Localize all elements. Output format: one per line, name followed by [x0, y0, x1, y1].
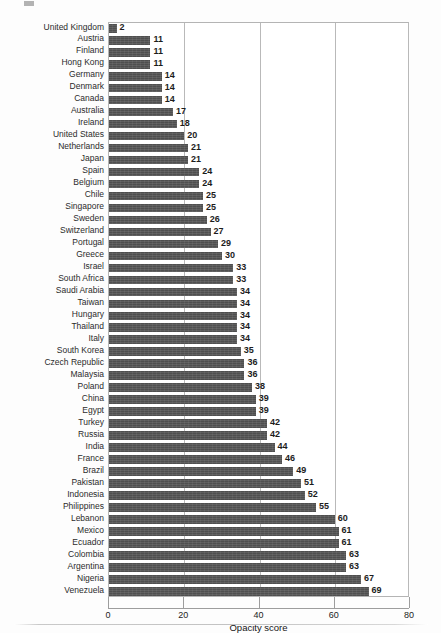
category-label: Mexico — [0, 525, 104, 535]
bar-value-label: 18 — [180, 118, 190, 129]
chart-page: 2111111141414171820212124242525262729303… — [0, 0, 441, 633]
x-tick-20 — [183, 597, 184, 608]
x-tick-40 — [259, 597, 260, 608]
bar-row: 34 — [109, 334, 408, 346]
bar — [109, 383, 252, 392]
bar-value-label: 33 — [236, 274, 246, 285]
bar-row: 52 — [109, 490, 408, 502]
bar-row: 20 — [109, 131, 408, 143]
category-label: Germany — [0, 69, 104, 79]
category-label: Switzerland — [0, 225, 104, 235]
bar — [109, 467, 293, 476]
bar — [109, 359, 244, 368]
bar-row: 18 — [109, 119, 408, 131]
bar — [109, 84, 162, 93]
bar-row: 21 — [109, 155, 408, 167]
bar-row: 44 — [109, 442, 408, 454]
bar-value-label: 69 — [372, 585, 382, 596]
bar-value-label: 29 — [221, 238, 231, 249]
category-label: Finland — [0, 45, 104, 55]
bar-value-label: 60 — [338, 513, 348, 524]
bar-row: 34 — [109, 322, 408, 334]
bar-rows: 2111111141414171820212124242525262729303… — [109, 23, 408, 596]
bar-row: 36 — [109, 358, 408, 370]
category-label: South Korea — [0, 345, 104, 355]
bar-value-label: 33 — [236, 262, 246, 273]
category-label: Ireland — [0, 117, 104, 127]
category-label: Greece — [0, 249, 104, 259]
category-label: Pakistan — [0, 477, 104, 487]
bar — [109, 587, 369, 596]
bar — [109, 575, 361, 584]
bar-value-label: 39 — [259, 393, 269, 404]
bar — [109, 120, 177, 129]
bar — [109, 539, 339, 548]
bar-value-label: 21 — [191, 154, 201, 165]
category-label: Brazil — [0, 465, 104, 475]
bar-row: 34 — [109, 287, 408, 299]
x-tick-80 — [409, 597, 410, 608]
category-label: Sweden — [0, 213, 104, 223]
category-label: United Kingdom — [0, 22, 104, 32]
bar-row: 25 — [109, 203, 408, 215]
category-label: India — [0, 441, 104, 451]
category-label: Venezuela — [0, 585, 104, 595]
bar — [109, 288, 237, 297]
bar — [109, 168, 199, 177]
x-tick-0 — [108, 597, 109, 608]
category-label: Egypt — [0, 405, 104, 415]
bar-row: 24 — [109, 167, 408, 179]
bar-value-label: 24 — [202, 166, 212, 177]
bar-value-label: 36 — [247, 369, 257, 380]
bar-value-label: 61 — [342, 537, 352, 548]
bar-row: 27 — [109, 227, 408, 239]
bar-value-label: 25 — [206, 190, 216, 201]
bar-value-label: 2 — [120, 22, 125, 33]
bar-row: 14 — [109, 71, 408, 83]
bar-row: 24 — [109, 179, 408, 191]
bar-value-label: 39 — [259, 405, 269, 416]
category-axis-labels: United KingdomAustriaFinlandHong KongGer… — [0, 22, 104, 597]
bar-value-label: 30 — [225, 250, 235, 261]
category-label: Indonesia — [0, 489, 104, 499]
bar — [109, 180, 199, 189]
bar-value-label: 34 — [240, 286, 250, 297]
bar — [109, 515, 335, 524]
bar — [109, 407, 256, 416]
bar-value-label: 11 — [153, 58, 163, 69]
bar-row: 29 — [109, 239, 408, 251]
bar-row: 46 — [109, 454, 408, 466]
bar-row: 25 — [109, 191, 408, 203]
bar-value-label: 46 — [285, 453, 295, 464]
bar-value-label: 38 — [255, 381, 265, 392]
bar-value-label: 14 — [165, 70, 175, 81]
bar-value-label: 55 — [319, 501, 329, 512]
bar-value-label: 36 — [247, 357, 257, 368]
bar — [109, 108, 173, 117]
category-label: Czech Republic — [0, 357, 104, 367]
category-label: Spain — [0, 165, 104, 175]
bar — [109, 300, 237, 309]
bar-row: 49 — [109, 466, 408, 478]
bar — [109, 240, 218, 249]
category-label: Singapore — [0, 201, 104, 211]
bar — [109, 479, 301, 488]
category-label: Chile — [0, 189, 104, 199]
bar-row: 34 — [109, 311, 408, 323]
bar — [109, 36, 150, 45]
bar-value-label: 25 — [206, 202, 216, 213]
bar-row: 63 — [109, 550, 408, 562]
category-label: Poland — [0, 381, 104, 391]
bar-value-label: 34 — [240, 321, 250, 332]
category-label: Netherlands — [0, 141, 104, 151]
bar — [109, 347, 241, 356]
bar-value-label: 44 — [278, 441, 288, 452]
opacity-score-bar-chart: 2111111141414171820212124242525262729303… — [0, 0, 441, 633]
bar-row: 14 — [109, 95, 408, 107]
bar — [109, 216, 207, 225]
category-label: Lebanon — [0, 513, 104, 523]
x-tick-60 — [334, 597, 335, 608]
page-bottom-rule — [14, 624, 428, 625]
bar-value-label: 52 — [308, 489, 318, 500]
bar — [109, 503, 316, 512]
